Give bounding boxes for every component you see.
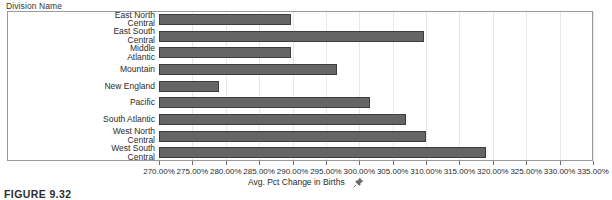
x-tick-label-0: 270.00% xyxy=(143,167,175,176)
x-tick-label-1: 275.00% xyxy=(177,167,209,176)
x-tick-label-9: 315.00% xyxy=(444,167,476,176)
bar-south-atlantic[interactable] xyxy=(159,114,407,125)
x-axis: 270.00%275.00%280.00%285.00%290.00%295.0… xyxy=(7,161,593,162)
x-tick-4 xyxy=(293,161,294,165)
category-label-middle-atlantic[interactable]: Middle Atlantic xyxy=(127,44,155,61)
x-tick-label-2: 280.00% xyxy=(210,167,242,176)
x-axis-title-text: Avg. Pct Change in Births xyxy=(248,177,345,187)
category-axis-labels: East North CentralEast South CentralMidd… xyxy=(7,11,159,161)
bar-mountain[interactable] xyxy=(159,64,338,75)
bar-west-south-central[interactable] xyxy=(159,147,487,158)
category-label-south-atlantic[interactable]: South Atlantic xyxy=(103,115,155,124)
category-label-west-south-central[interactable]: West South Central xyxy=(111,144,155,161)
category-label-west-north-central[interactable]: West North Central xyxy=(113,127,155,144)
x-tick-label-13: 335.00% xyxy=(577,167,609,176)
x-tick-label-12: 330.00% xyxy=(544,167,576,176)
category-label-east-south-central[interactable]: East South Central xyxy=(113,27,155,44)
x-tick-12 xyxy=(560,161,561,165)
x-tick-label-4: 290.00% xyxy=(277,167,309,176)
x-tick-13 xyxy=(593,161,594,165)
category-label-mountain[interactable]: Mountain xyxy=(120,65,155,74)
x-tick-7 xyxy=(393,161,394,165)
bar-west-north-central[interactable] xyxy=(159,131,426,142)
bar-east-north-central[interactable] xyxy=(159,14,292,25)
x-tick-label-3: 285.00% xyxy=(243,167,275,176)
x-tick-6 xyxy=(359,161,360,165)
x-tick-8 xyxy=(426,161,427,165)
x-tick-label-8: 310.00% xyxy=(410,167,442,176)
bar-east-south-central[interactable] xyxy=(159,31,425,42)
bars-area xyxy=(159,11,593,161)
figure-caption: FIGURE 9.32 xyxy=(4,188,71,200)
bar-pacific[interactable] xyxy=(159,97,371,108)
dimension-column-header: Division Name xyxy=(6,1,62,11)
x-tick-label-11: 325.00% xyxy=(510,167,542,176)
gridline-13 xyxy=(593,12,594,160)
x-tick-5 xyxy=(326,161,327,165)
x-tick-label-6: 300.00% xyxy=(344,167,376,176)
x-tick-1 xyxy=(192,161,193,165)
x-tick-label-10: 320.00% xyxy=(477,167,509,176)
x-tick-11 xyxy=(526,161,527,165)
category-label-east-north-central[interactable]: East North Central xyxy=(115,11,155,28)
bar-new-england[interactable] xyxy=(159,81,220,92)
x-tick-label-7: 305.00% xyxy=(377,167,409,176)
x-axis-title: Avg. Pct Change in Births xyxy=(0,177,612,188)
x-tick-2 xyxy=(226,161,227,165)
bar-chart-figure: Division Name East North CentralEast Sou… xyxy=(0,0,612,200)
x-tick-label-5: 295.00% xyxy=(310,167,342,176)
x-tick-10 xyxy=(493,161,494,165)
x-tick-3 xyxy=(259,161,260,165)
category-label-pacific[interactable]: Pacific xyxy=(130,98,155,107)
bar-middle-atlantic[interactable] xyxy=(159,47,292,58)
category-label-new-england[interactable]: New England xyxy=(104,82,155,91)
x-tick-9 xyxy=(459,161,460,165)
x-tick-0 xyxy=(159,161,160,165)
pushpin-icon[interactable] xyxy=(353,177,364,188)
